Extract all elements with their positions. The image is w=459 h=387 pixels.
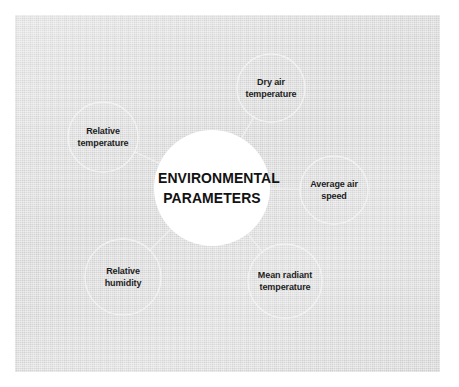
center-circle-shape[interactable] bbox=[154, 130, 270, 246]
connector-average-air-speed bbox=[269, 189, 301, 190]
connector-relative-temperature bbox=[134, 151, 161, 163]
node-circle-average-air-speed[interactable] bbox=[300, 156, 368, 224]
connector-relative-humidity bbox=[149, 228, 172, 251]
connector-dry-air-temperature bbox=[241, 116, 254, 138]
node-circle-mean-radiant-temperature[interactable] bbox=[248, 244, 322, 318]
diagram-graphics bbox=[0, 0, 459, 387]
center-circle bbox=[154, 130, 270, 246]
node-circle-dry-air-temperature[interactable] bbox=[237, 54, 305, 122]
connector-mean-radiant-temperature bbox=[247, 233, 263, 253]
node-circle-relative-humidity[interactable] bbox=[85, 239, 161, 315]
diagram-canvas: ENVIRONMENTALPARAMETERSDry airtemperatur… bbox=[0, 0, 459, 387]
node-circle-relative-temperature[interactable] bbox=[68, 102, 138, 172]
